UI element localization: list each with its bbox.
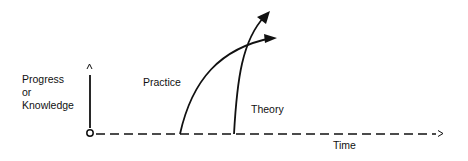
origin-circle-icon <box>87 130 93 136</box>
theory-curve <box>234 16 265 134</box>
y-axis-label-line-1: Progress <box>22 73 64 85</box>
x-axis-arrow-icon <box>438 131 443 137</box>
x-axis-label: Time <box>333 139 356 151</box>
practice-arrowhead-icon <box>264 34 277 43</box>
practice-label: Practice <box>143 76 181 88</box>
progress-knowledge-diagram: Progress or Knowledge Practice Theory Ti… <box>0 0 468 161</box>
y-axis-arrow-icon <box>87 64 92 69</box>
theory-label: Theory <box>251 103 284 115</box>
practice-curve <box>180 38 272 134</box>
y-axis-label-line-2: or <box>22 86 32 98</box>
y-axis-label-line-3: Knowledge <box>22 99 74 111</box>
